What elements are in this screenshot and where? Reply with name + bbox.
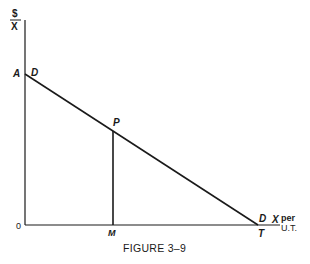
point-label-p: P [113,118,120,128]
point-label-d-bottom: D [259,214,266,224]
point-label-t: T [258,229,264,239]
y-axis-label-dollar: $ [12,9,18,19]
diagram-canvas [0,0,310,264]
x-axis-label-x: X [272,215,279,225]
demand-line [25,74,258,225]
point-label-a: A [13,69,20,79]
point-label-d-top: D [31,68,38,78]
figure-caption: FIGURE 3–9 [123,243,186,254]
point-label-m: M [108,229,116,238]
x-axis-label-unit: U.T. [281,224,297,233]
x-axis-label-per: per [281,214,295,223]
y-axis-label-x: X [11,22,18,32]
origin-label: 0 [16,222,21,231]
